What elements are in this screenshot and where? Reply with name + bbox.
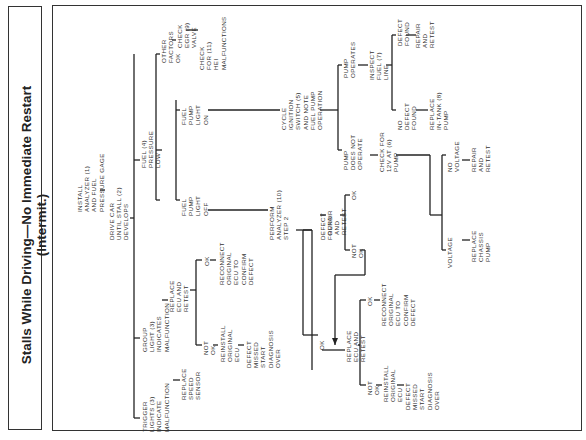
node-fuel-pump-light-off: FUEL PUMP LIGHT OFF <box>180 196 209 216</box>
node-no-voltage: NO VOLTAGE <box>446 141 460 172</box>
node-pump-does-not-operate: PUMP DOES NOT OPERATE <box>342 134 364 170</box>
node-replace-chassis-pump: REPLACE CHASSIS PUMP <box>470 230 492 262</box>
node-perform-analyzer: PERFORM ANALYZER (10) STEP 2 <box>268 190 290 240</box>
node-cycle-ignition: CYCLE IGNITION SWITCH (5) AND NOTE FUEL … <box>280 90 323 130</box>
node-voltage: VOLTAGE <box>446 237 453 268</box>
node-replace-ecu-2: REPLACE ECU AND RETEST <box>345 330 367 362</box>
node-not-ok-1: NOT OK <box>202 341 216 355</box>
node-reconnect-1: RECONNECT ORIGINAL ECU TO CONFIRM DEFECT <box>218 242 254 285</box>
node-group-light: GROUP LIGHT (3) INDICATES MALFUNCTION <box>141 303 170 352</box>
node-inspect-fuel-line: INSPECT FUEL (7) LINE <box>368 50 390 80</box>
node-repair-a: REPAIR AND RETEST <box>326 208 348 235</box>
node-reinstall-2: REINSTALL ORIGINAL ECU <box>382 365 404 402</box>
node-drive-car: DRIVE CAR UNTIL STALL (2) DEVELOPS <box>108 187 130 240</box>
node-check-12v: CHECK FOR 12V AT (6) PUMP <box>378 132 400 172</box>
node-ok-3: OK <box>366 296 373 306</box>
node-check-hei: CHECK FOR (11) HEI MALFUNCTIONS <box>198 16 227 70</box>
node-ok-2: OK <box>318 340 325 350</box>
node-no-defect-found: NO DEFECT FOUND <box>396 103 418 130</box>
node-repair-b: REPAIR AND RETEST <box>414 21 436 48</box>
node-defect-missed-1: DEFECT MISSED START DIAGNOSIS OVER <box>245 330 281 368</box>
node-replace-ecu-1: REPLACE ECU AND RETEST <box>168 280 190 312</box>
node-defect-missed-2: DEFECT MISSED START DIAGNOSIS OVER <box>404 372 440 410</box>
node-reconnect-2: RECONNECT ORIGINAL ECU TO CONFIRM DEFECT <box>380 283 416 326</box>
node-ok-a: OK <box>350 190 357 200</box>
node-ok-1: OK <box>203 256 210 266</box>
node-repair-c: REPAIR AND RETEST <box>470 145 492 172</box>
node-defect-found-b: DEFECT FOUND <box>396 19 410 46</box>
node-not-ok-a: NOT OK <box>350 244 364 258</box>
node-check-egr: CHECK EGR (9) VALVE <box>176 23 198 49</box>
node-reinstall-1: REINSTALL ORIGINAL ECU <box>219 325 241 362</box>
node-not-ok-2: NOT OK <box>366 381 380 395</box>
node-fuel-pressure-low: FUEL (4) PRESSURE LOW <box>140 131 162 168</box>
node-install-analyzer: INSTALL ANALYZER (1) AND FUEL PRESSURE G… <box>76 153 105 212</box>
node-fuel-pump-light-on: FUEL PUMP LIGHT ON <box>180 105 209 125</box>
node-pump-operates: PUMP OPERATES <box>342 42 356 78</box>
flowchart-connectors <box>0 0 586 440</box>
node-trigger-lights: TRIGGER LIGHTS (3) INDICATE MALFUNCTION <box>141 383 170 432</box>
node-replace-speed-sensor: REPLACE SPEED SENSOR <box>180 368 202 400</box>
node-replace-in-tank-pump: REPLACE IN-TANK (8) PUMP <box>428 92 450 130</box>
